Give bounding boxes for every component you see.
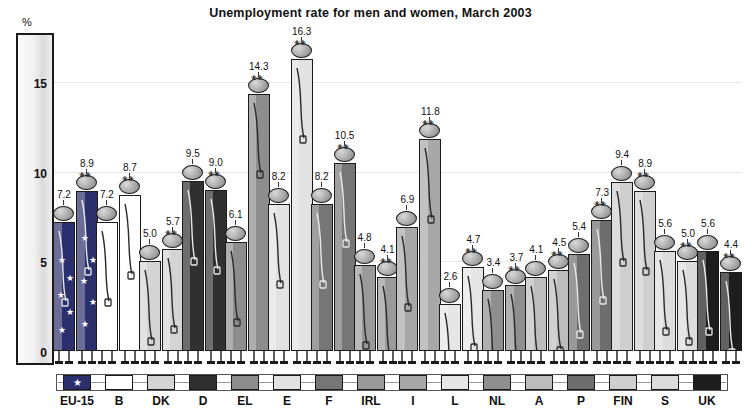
bar-l-men[interactable] [439,304,461,351]
bar-group-eu-15[interactable]: ★★★★★7.2★★★★★❀❀8.9 [53,33,98,365]
bar-group-a[interactable]: 4.1❀❀4.5 [525,33,570,365]
figure-legs-icon [506,351,526,365]
figure-legs-icon [569,351,589,365]
figure-head-icon: ❀❀ [548,254,569,269]
bar-group-l[interactable]: 2.6❀❀4.7 [439,33,484,365]
legend-swatch-p[interactable] [567,375,595,390]
bar-uk-men[interactable] [697,251,719,351]
bar-p-women[interactable] [591,220,613,351]
bar-group-el[interactable]: 6.1❀❀14.3 [225,33,270,365]
figure-head-icon [96,206,117,221]
legend-label-uk: UK [678,394,736,408]
value-label-p-men: 5.4 [566,221,592,232]
figure-legs-icon [312,351,332,365]
value-label-tick [149,239,150,244]
bar-highlight [698,252,706,350]
figure-legs-icon [612,351,632,365]
bar-eu-15-women[interactable]: ★★★★★ [76,191,98,351]
bar-el-men[interactable] [225,242,247,351]
value-label-tick [344,141,345,146]
figure-head-icon: ❀❀ [248,78,269,93]
bar-group-e[interactable]: 8.2❀❀16.3 [268,33,313,365]
bar-dk-women[interactable] [162,249,184,351]
legend-swatch-irl[interactable] [357,375,385,390]
legend-swatch-i[interactable] [399,375,427,390]
legend-swatch-d[interactable] [189,375,217,390]
bar-e-women[interactable] [291,59,313,351]
bar-f-women[interactable] [334,163,356,351]
bar-fin-men[interactable] [611,182,633,351]
bar-b-women[interactable] [119,195,141,351]
figure-legs-icon [463,351,483,365]
bar-f-men[interactable] [311,204,333,351]
bar-irl-men[interactable] [354,265,376,351]
legend-swatch-f[interactable] [315,375,343,390]
legend-swatch-l[interactable] [441,375,469,390]
bar-b-men[interactable] [96,222,118,351]
value-label-tick [129,173,130,178]
eu-star-icon: ★ [58,256,66,265]
figure-legs-icon [54,351,74,365]
bar-dk-men[interactable] [139,261,161,351]
bar-highlight [140,262,148,350]
y-axis-tick-10: 10 [34,167,47,181]
bar-group-nl[interactable]: 3.4❀❀3.7 [482,33,527,365]
bar-group-b[interactable]: 7.2❀❀8.7 [96,33,141,365]
hair-bow-icon: ❀❀ [422,119,434,126]
bar-group-fin[interactable]: 9.4❀❀8.9 [611,33,656,365]
value-label-l-men: 2.6 [437,271,463,282]
legend-swatch-e[interactable] [273,375,301,390]
bar-group-uk[interactable]: 5.6❀❀4.4 [697,33,742,365]
bar-group-s[interactable]: 5.6❀❀5.0 [654,33,699,365]
value-label-uk-men: 5.6 [695,218,721,229]
legend-swatch-b[interactable] [105,375,133,390]
figure-head-icon [525,261,546,276]
bar-e-men[interactable] [268,204,290,351]
plot-area: ★★★★★7.2★★★★★❀❀8.97.2❀❀8.75.0❀❀5.79.5❀❀9… [54,33,741,365]
figure-legs-icon [97,351,117,365]
bar-highlight [183,182,191,350]
figure-head-icon: ❀❀ [334,147,355,162]
bar-group-i[interactable]: 6.9❀❀11.8 [396,33,441,365]
bar-fin-women[interactable] [634,191,656,351]
hair-bow-icon: ❀❀ [594,200,606,207]
value-label-eu-15-men: 7.2 [51,189,77,200]
legend-swatch-el[interactable] [231,375,259,390]
bar-s-men[interactable] [654,251,676,351]
bar-highlight [678,262,686,350]
bar-irl-women[interactable] [377,277,399,351]
bar-p-men[interactable] [568,254,590,351]
bar-group-p[interactable]: 5.4❀❀7.3 [568,33,613,365]
bar-group-f[interactable]: 8.2❀❀10.5 [311,33,356,365]
figure-legs-icon [440,351,460,365]
legend-swatch-s[interactable] [651,375,679,390]
legend-swatch-eu-15[interactable]: ★ [63,375,91,390]
figure-legs-icon [483,351,503,365]
bar-l-women[interactable] [462,267,484,351]
bar-group-irl[interactable]: 4.8❀❀4.1 [354,33,399,365]
bar-nl-men[interactable] [482,290,504,351]
legend-swatch-dk[interactable] [147,375,175,390]
bar-el-women[interactable] [248,94,270,351]
figure-head-icon: ❀❀ [591,204,612,219]
legend-swatch-fin[interactable] [609,375,637,390]
value-label-i-men: 6.9 [394,194,420,205]
bar-uk-women[interactable] [720,272,742,351]
bar-highlight [721,273,729,350]
legend-swatch-uk[interactable] [693,375,721,390]
bar-group-d[interactable]: 9.5❀❀9.0 [182,33,227,365]
bar-i-women[interactable] [419,139,441,351]
bar-eu-15-men[interactable]: ★★★★★ [53,222,75,351]
bar-i-men[interactable] [396,227,418,351]
bar-a-women[interactable] [548,270,570,351]
hair-bow-icon: ❀❀ [680,241,692,248]
bar-group-dk[interactable]: 5.0❀❀5.7 [139,33,184,365]
bar-s-women[interactable] [677,261,699,351]
figure-legs-icon [655,351,675,365]
bar-d-men[interactable] [182,181,204,351]
legend-swatch-a[interactable] [525,375,553,390]
legend-swatch-nl[interactable] [483,375,511,390]
bar-a-men[interactable] [525,277,547,351]
bar-nl-women[interactable] [505,285,527,351]
value-label-tick [449,282,450,287]
